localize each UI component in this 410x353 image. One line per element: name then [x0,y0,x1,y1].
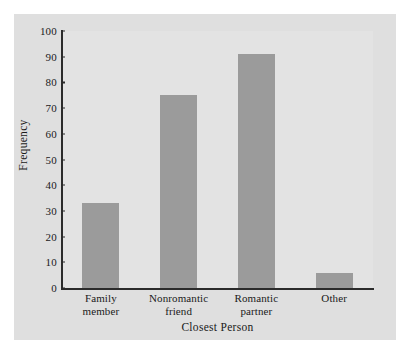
y-tick-mark [61,133,65,134]
y-tick-mark [61,56,65,57]
y-tick-label: 80 [20,77,57,88]
y-axis-title: Frequency [17,100,29,190]
y-tick-mark [61,159,65,160]
y-tick-mark [61,108,65,109]
y-tick-mark [61,262,65,263]
y-tick-label: 20 [20,231,57,242]
y-tick-label: 100 [20,26,57,37]
x-axis-title: Closest Person [62,321,373,333]
y-tick-mark [61,288,65,289]
bar [160,95,197,288]
x-tick-label-line1: Romantic [218,292,296,305]
x-axis-line [61,288,374,290]
bar [316,273,353,288]
x-tick-label: Familymember [62,292,140,318]
y-tick-mark [61,185,65,186]
y-tick-mark [61,31,65,32]
x-tick-label: Nonromanticfriend [140,292,218,318]
x-tick-label-line1: Other [295,292,373,305]
y-tick-label: 90 [20,51,57,62]
x-tick-label-line2: friend [140,305,218,318]
bar [238,54,275,288]
x-tick-label: Other [295,292,373,305]
x-tick-label-line2: member [62,305,140,318]
y-tick-label: 30 [20,205,57,216]
x-tick-label: Romanticpartner [218,292,296,318]
y-tick-mark [61,210,65,211]
y-tick-mark [61,236,65,237]
y-tick-mark [61,82,65,83]
y-tick-label: 0 [20,283,57,294]
x-tick-label-line2: partner [218,305,296,318]
x-tick-label-line1: Nonromantic [140,292,218,305]
bar-chart-screenshot: 0102030405060708090100 Frequency Familym… [0,0,410,353]
y-tick-label: 10 [20,257,57,268]
bar [82,203,119,288]
x-tick-label-line1: Family [62,292,140,305]
